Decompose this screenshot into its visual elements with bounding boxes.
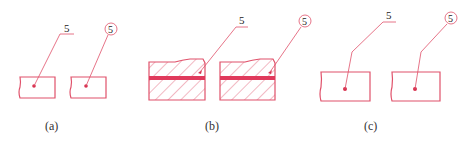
part-c1: 5 <box>320 9 396 101</box>
part-a1: 5 <box>19 22 74 98</box>
part-c2: 5 <box>391 12 457 101</box>
part-number-label: 5 <box>302 16 307 27</box>
panel-b: 5 5 (b) <box>149 14 311 133</box>
part-outline <box>70 77 106 98</box>
leader-line <box>86 35 108 86</box>
part-a2: 5 <box>70 23 117 98</box>
weld-band <box>149 76 205 80</box>
part-number-label: 5 <box>448 13 453 24</box>
part-number-label: 5 <box>64 22 70 34</box>
panel-a: 5 5 (a) <box>19 22 117 133</box>
leader-line <box>34 34 74 86</box>
part-b2: 5 <box>220 15 311 100</box>
diagram-canvas: 5 5 (a) 5 5 <box>0 0 471 145</box>
part-number-label: 5 <box>386 9 392 21</box>
panel-c: 5 5 (c) <box>320 9 457 133</box>
leader-line <box>270 27 301 72</box>
panel-caption: (b) <box>205 119 219 133</box>
weld-band <box>220 76 275 80</box>
part-number-label: 5 <box>239 14 245 26</box>
part-outline <box>320 72 370 101</box>
panel-caption: (a) <box>45 119 58 133</box>
panel-caption: (c) <box>364 119 377 133</box>
leader-line <box>415 24 447 89</box>
part-number-label: 5 <box>108 24 113 35</box>
